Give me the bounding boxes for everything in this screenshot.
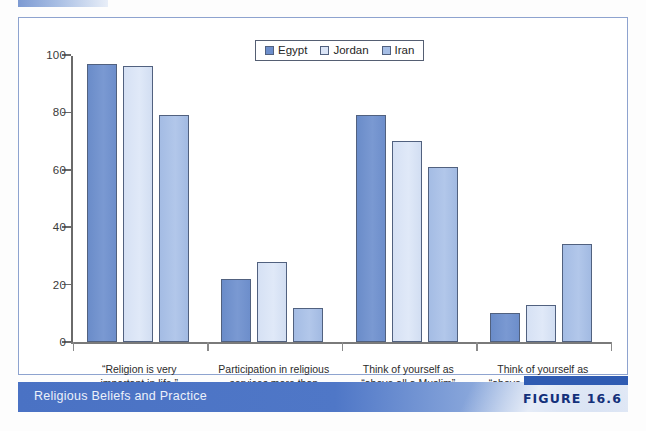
x-axis-group-tick: [207, 342, 209, 351]
legend-swatch-icon: [265, 46, 274, 55]
category-label-line: “Religion is very: [72, 362, 207, 376]
y-axis-tick-label: 100: [46, 49, 66, 61]
legend-item-jordan: Jordan: [320, 44, 368, 56]
y-axis-tick-label: 60: [53, 164, 66, 176]
y-axis-tick-label: 0: [59, 336, 66, 348]
bars-container: [73, 38, 611, 342]
bar-jordan-group-4: [526, 305, 556, 342]
legend-item-iran: Iran: [382, 44, 415, 56]
bar-iran-group-3: [428, 167, 458, 342]
category-label-line: Think of yourself as: [341, 362, 476, 376]
y-axis-tick-label: 40: [53, 221, 66, 233]
figure-root: 020406080100 EgyptJordanIran “Religion i…: [0, 0, 646, 431]
bar-egypt-group-3: [356, 115, 386, 342]
bar-jordan-group-1: [123, 66, 153, 342]
x-axis-group-tick: [73, 342, 75, 351]
legend-label: Egypt: [278, 44, 307, 56]
legend-label: Jordan: [333, 44, 368, 56]
bar-jordan-group-3: [392, 141, 422, 342]
category-label-line: Participation in religious: [207, 362, 342, 376]
bar-iran-group-4: [562, 244, 592, 342]
bar-egypt-group-4: [490, 313, 520, 342]
top-decorative-bar: [18, 0, 108, 7]
x-axis-group-tick: [342, 342, 344, 351]
y-axis-tick-label: 20: [53, 279, 66, 291]
bar-egypt-group-1: [87, 64, 117, 342]
bar-iran-group-2: [293, 308, 323, 342]
legend-swatch-icon: [320, 46, 329, 55]
plot-area: 020406080100: [71, 38, 611, 343]
x-axis-end-tick: [611, 342, 613, 351]
legend-swatch-icon: [382, 46, 391, 55]
figure-number-text: FIGURE 16.6: [523, 391, 622, 406]
figure-caption-text: Religious Beliefs and Practice: [34, 389, 207, 403]
figure-caption-banner: Religious Beliefs and Practice FIGURE 16…: [18, 382, 628, 412]
legend-label: Iran: [395, 44, 415, 56]
figure-number-tab: [524, 376, 628, 385]
chart-legend: EgyptJordanIran: [255, 40, 424, 61]
x-axis-group-tick: [476, 342, 478, 351]
y-axis-tick-label: 80: [53, 106, 66, 118]
bar-jordan-group-2: [257, 262, 287, 342]
chart-panel: 020406080100 EgyptJordanIran “Religion i…: [18, 17, 628, 375]
legend-item-egypt: Egypt: [265, 44, 307, 56]
category-label-line: Think of yourself as: [476, 362, 611, 376]
bar-egypt-group-2: [221, 279, 251, 342]
bar-iran-group-1: [159, 115, 189, 342]
